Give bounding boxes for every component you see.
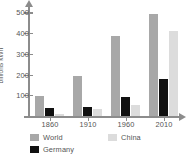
bar-group-1960	[111, 36, 140, 116]
legend-item-germany: Germany	[30, 145, 108, 154]
bar-group-1910	[73, 76, 102, 116]
x-tick-label-1960: 1960	[118, 120, 135, 129]
y-tick-label-400: 400	[16, 29, 29, 38]
legend-item-world: World	[30, 133, 108, 142]
x-axis-line	[24, 116, 181, 118]
legend-label-world: World	[43, 133, 63, 142]
chart-legend: World China Germany	[30, 133, 180, 154]
bar-group-1860	[35, 96, 64, 116]
legend-swatch-germany	[30, 146, 39, 153]
y-tick-label-300: 300	[16, 49, 29, 58]
bar-world-1910	[73, 76, 82, 116]
y-tick-label-500: 500	[16, 8, 29, 17]
bar-germany-1960	[121, 97, 130, 116]
y-axis-title: billions kWh	[0, 48, 4, 84]
bar-china-2010	[169, 31, 178, 116]
legend-swatch-china	[108, 134, 117, 141]
bar-china-1960	[131, 105, 140, 116]
y-tick-label-100: 100	[16, 91, 29, 100]
x-axis-arrow-icon	[179, 113, 186, 121]
x-tick-label-1910: 1910	[80, 120, 97, 129]
legend-label-germany: Germany	[43, 145, 74, 154]
bar-world-2010	[149, 14, 158, 116]
bar-germany-1860	[45, 108, 54, 116]
plot-area	[29, 6, 177, 116]
bar-world-1860	[35, 96, 44, 116]
legend-label-china: China	[121, 133, 141, 142]
bar-china-1860	[55, 114, 64, 116]
x-tick-label-1860: 1860	[42, 120, 59, 129]
bar-world-1960	[111, 36, 120, 116]
bar-chart: billions kWh 500 400 300 200 100	[0, 0, 192, 159]
bar-china-1910	[93, 109, 102, 116]
legend-item-china: China	[108, 133, 180, 142]
bar-germany-2010	[159, 79, 168, 116]
bar-germany-1910	[83, 107, 92, 116]
y-tick-label-200: 200	[16, 70, 29, 79]
x-tick-label-2010: 2010	[156, 120, 173, 129]
bar-group-2010	[149, 14, 178, 116]
legend-swatch-world	[30, 134, 39, 141]
